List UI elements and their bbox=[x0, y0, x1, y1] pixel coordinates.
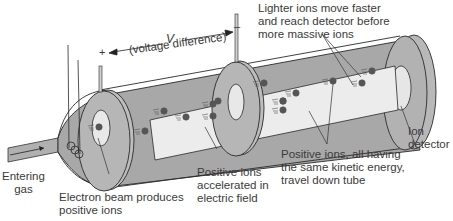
plus-sign: + bbox=[99, 46, 105, 59]
gas-inlet-pipe bbox=[8, 138, 58, 162]
mass-spectrometer-diagram: + – V (voltage difference) Lighter ions … bbox=[0, 0, 453, 221]
label-travel-tube: Positive ions, all having the same kinet… bbox=[281, 148, 405, 187]
label-electron-beam: Electron beam produces positive ions bbox=[59, 191, 184, 217]
label-lighter-ions: Lighter ions move faster and reach detec… bbox=[258, 2, 390, 41]
label-entering-gas: Entering gas bbox=[2, 170, 45, 196]
positive-plate bbox=[78, 66, 134, 191]
label-ion-detector: Ion detector bbox=[408, 125, 450, 151]
label-accelerated-ions: Positive ions accelerated in electric fi… bbox=[197, 166, 269, 205]
minus-sign: – bbox=[234, 20, 240, 33]
ion-icon bbox=[215, 98, 221, 104]
positive-terminal bbox=[99, 66, 102, 92]
